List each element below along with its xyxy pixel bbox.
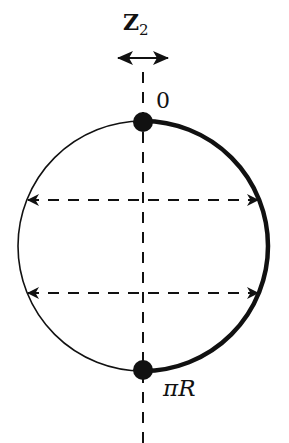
z2-symmetry-label: Z2 [123,9,149,39]
label-pi-r: πR [162,375,195,401]
circle-left-arc [18,121,143,371]
label-zero: 0 [156,88,170,113]
fixed-point-bottom-dot [133,360,153,380]
orbifold-diagram: Z2 0 πR [0,0,289,443]
fixed-point-top-dot [133,112,153,132]
circle-right-arc-highlighted [143,121,268,371]
